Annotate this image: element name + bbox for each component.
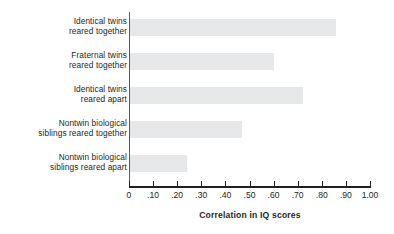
x-axis-tick xyxy=(250,181,251,187)
category-label-line: reared together xyxy=(7,60,127,70)
category-label-line: siblings reared together xyxy=(7,128,127,138)
category-label-line: Nontwin biological xyxy=(59,118,127,128)
category-label-line: Fraternal twins xyxy=(71,50,127,60)
category-label-line: Identical twins xyxy=(74,16,127,26)
x-axis-tick xyxy=(370,181,371,187)
plot-area: Identical twins reared together Fraterna… xyxy=(0,0,394,234)
category-label-line: Identical twins xyxy=(74,84,127,94)
category-label: Identical twins reared apart xyxy=(7,84,127,104)
x-axis-tick xyxy=(153,181,154,187)
category-label-line: reared together xyxy=(7,26,127,36)
bar xyxy=(130,87,303,104)
category-label-line: siblings reared apart xyxy=(7,162,127,172)
category-label-line: reared apart xyxy=(7,94,127,104)
bar xyxy=(130,155,187,172)
x-axis-tick xyxy=(274,181,275,187)
category-label: Nontwin biological siblings reared toget… xyxy=(7,118,127,138)
category-label: Nontwin biological siblings reared apart xyxy=(7,152,127,172)
bar xyxy=(130,53,274,70)
x-axis-tick xyxy=(225,181,226,187)
iq-correlation-bar-chart: Identical twins reared together Fraterna… xyxy=(0,0,394,234)
bar xyxy=(130,121,242,138)
category-label: Fraternal twins reared together xyxy=(7,50,127,70)
x-axis-tick xyxy=(201,181,202,187)
x-axis-tick-label: 1.00 xyxy=(350,190,390,201)
category-label: Identical twins reared together xyxy=(7,16,127,36)
x-axis-tick xyxy=(346,181,347,187)
x-axis-tick xyxy=(177,181,178,187)
category-label-line: Nontwin biological xyxy=(59,152,127,162)
x-axis-tick xyxy=(129,181,130,187)
x-axis-tick xyxy=(322,181,323,187)
x-axis-tick xyxy=(298,181,299,187)
x-axis-title: Correlation in IQ scores xyxy=(129,210,371,220)
bar xyxy=(130,19,336,36)
